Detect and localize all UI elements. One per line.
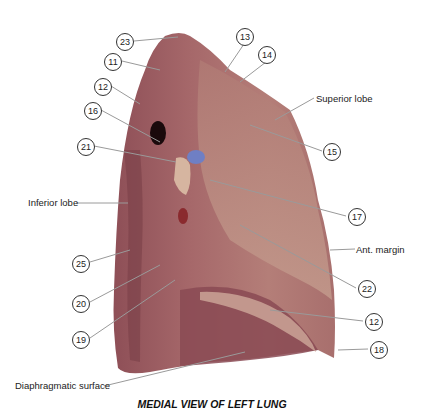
label-superior-lobe: Superior lobe xyxy=(316,93,373,104)
label-22: 22 xyxy=(358,280,376,298)
label-16: 16 xyxy=(84,102,102,120)
label-25: 25 xyxy=(72,255,90,273)
label-ant-margin: Ant. margin xyxy=(356,244,405,255)
label-diaphragmatic-surface: Diaphragmatic surface xyxy=(15,380,110,391)
label-20: 20 xyxy=(72,295,90,313)
label-19: 19 xyxy=(72,331,90,349)
label-11: 11 xyxy=(104,53,122,71)
label-12-lower: 12 xyxy=(365,313,383,331)
label-14: 14 xyxy=(258,46,276,64)
label-17: 17 xyxy=(348,208,366,226)
label-18: 18 xyxy=(370,341,388,359)
label-21: 21 xyxy=(77,138,95,156)
label-15: 15 xyxy=(323,143,341,161)
figure-title: MEDIAL VIEW OF LEFT LUNG xyxy=(0,398,424,410)
figure-stage: 23 11 12 16 21 13 14 15 17 22 12 18 25 2… xyxy=(0,0,424,419)
label-12-upper: 12 xyxy=(94,78,112,96)
label-23: 23 xyxy=(116,33,134,51)
pulmonary-artery xyxy=(187,150,205,164)
label-13: 13 xyxy=(236,28,254,46)
pulmonary-vein xyxy=(178,208,188,224)
label-inferior-lobe: Inferior lobe xyxy=(28,197,78,208)
